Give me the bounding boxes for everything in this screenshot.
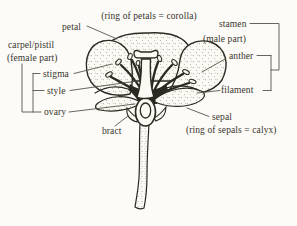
label-filament: filament [221, 85, 253, 95]
ovule-shape [140, 103, 150, 118]
label-ovary: ovary [44, 107, 66, 117]
stamen-bracket-lines [250, 24, 279, 91]
bract-leader-line [115, 116, 128, 126]
label-female-part: (female part) [7, 53, 58, 63]
label-stamen: stamen [219, 19, 247, 29]
label-petal: petal [62, 22, 81, 32]
label-carpel-pistil: carpel/pistil [8, 40, 54, 50]
stigma-shape [134, 50, 158, 58]
flower-anatomy-diagram: (ring of petals = corolla) petal carpel/… [0, 0, 297, 226]
carpel-bracket-lines [22, 64, 44, 112]
label-bract: bract [102, 126, 122, 136]
sepal-leader-line [187, 108, 209, 117]
label-anther: anther [229, 51, 253, 61]
label-male-part: (male part) [203, 34, 246, 44]
label-stigma: stigma [43, 69, 69, 79]
label-style: style [47, 86, 65, 96]
ovary-shape [136, 98, 156, 126]
label-sepal: sepal [212, 112, 232, 122]
flower-drawing [86, 33, 226, 209]
label-calyx-note: (ring of sepals = calyx) [186, 125, 277, 135]
petal-leader-line [87, 26, 117, 39]
label-corolla-note: (ring of petals = corolla) [101, 11, 197, 21]
stem-shape [135, 124, 149, 209]
